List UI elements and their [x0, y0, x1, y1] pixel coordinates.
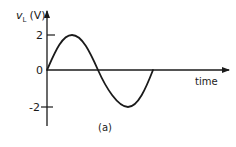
origin-label: 0 [36, 64, 43, 77]
y-tick-label-2: 2 [36, 29, 43, 42]
y-axis-label: vL(V) [16, 9, 46, 24]
y-tick-label-minus-2: -2 [29, 101, 40, 114]
figure-caption: (a) [98, 122, 112, 133]
x-axis-label: time [195, 76, 218, 87]
chart-figure: vL(V) 2 0 -2 time (a) [0, 0, 236, 147]
sine-curve [47, 35, 153, 107]
chart-svg: vL(V) 2 0 -2 time (a) [0, 0, 236, 147]
